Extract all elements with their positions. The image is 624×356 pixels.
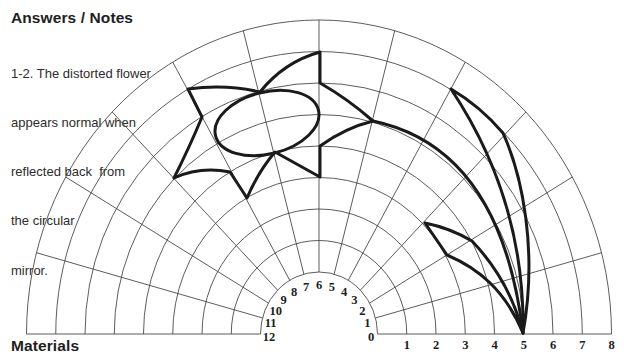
angle-label: 5 — [329, 280, 335, 294]
angle-label: 11 — [265, 316, 277, 330]
angle-label: 4 — [341, 285, 348, 299]
angle-label: 3 — [351, 293, 357, 307]
distorted-flower-petals — [174, 52, 373, 198]
angle-label: 2 — [359, 304, 365, 318]
distorted-flower-center — [208, 80, 326, 166]
angle-label: 0 — [368, 330, 374, 344]
grid-spoke — [334, 31, 395, 274]
angle-label: 1 — [364, 316, 370, 330]
radius-label: 3 — [462, 338, 468, 352]
grid-spoke — [36, 253, 262, 318]
angle-label: 7 — [303, 280, 309, 294]
angle-label: 6 — [316, 278, 322, 292]
grid-spoke — [360, 112, 525, 290]
radius-label: 7 — [579, 338, 585, 352]
radius-label: 2 — [433, 338, 439, 352]
angle-label: 8 — [291, 285, 297, 299]
materials-heading: Materials — [11, 337, 79, 355]
grid-spoke — [112, 112, 277, 290]
polar-grid-diagram: 012345678910111212345678 — [0, 0, 624, 356]
radius-label: 1 — [404, 338, 410, 352]
flower-stem — [373, 121, 523, 333]
grid-spoke — [66, 177, 269, 303]
radius-label: 4 — [491, 338, 498, 352]
radius-label: 8 — [608, 338, 614, 352]
grid-spoke — [348, 62, 465, 280]
angle-label: 12 — [263, 330, 276, 344]
radius-label: 5 — [521, 338, 527, 352]
grid-labels: 012345678910111212345678 — [263, 278, 615, 352]
small-leaf — [425, 223, 523, 333]
radius-label: 6 — [550, 338, 556, 352]
